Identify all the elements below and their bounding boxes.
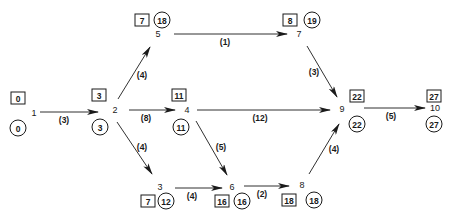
activity-duration-8-9: (4) <box>329 144 339 154</box>
activity-duration-5-7: (1) <box>220 37 230 47</box>
earliest-time-box-node-10: 27 <box>427 90 442 103</box>
activity-duration-2-4: (8) <box>141 113 151 123</box>
event-node-9-label: 9 <box>339 104 344 114</box>
event-node-3-label: 3 <box>157 182 162 192</box>
earliest-time-box-node-8: 18 <box>282 194 297 207</box>
latest-time-circle-node-1: 0 <box>10 120 27 137</box>
activity-duration-9-10: (5) <box>386 111 396 121</box>
latest-time-circle-node-10: 27 <box>426 116 443 133</box>
latest-time-circle-node-6: 16 <box>234 193 251 210</box>
event-node-4-label: 4 <box>184 105 189 115</box>
latest-time-circle-node-4: 11 <box>173 119 190 136</box>
earliest-time-box-node-9: 22 <box>350 90 365 103</box>
activity-duration-7-9: (3) <box>309 67 319 77</box>
activity-duration-3-6: (4) <box>187 191 197 201</box>
activity-duration-6-8: (2) <box>257 189 267 199</box>
earliest-time-box-node-1: 0 <box>11 92 26 105</box>
earliest-time-box-node-7: 8 <box>283 14 298 27</box>
activity-duration-2-5: (4) <box>137 70 147 80</box>
latest-time-circle-node-3: 12 <box>158 193 175 210</box>
earliest-time-box-node-2: 3 <box>92 89 107 102</box>
event-node-10-label: 10 <box>430 103 440 113</box>
earliest-time-box-node-5: 7 <box>135 14 150 27</box>
latest-time-circle-node-7: 19 <box>304 12 321 29</box>
event-node-6-label: 6 <box>229 182 234 192</box>
event-node-7-label: 7 <box>296 29 301 39</box>
event-node-2-label: 2 <box>112 105 117 115</box>
earliest-time-box-node-3: 7 <box>141 195 156 208</box>
event-node-1-label: 1 <box>31 108 36 118</box>
network-diagram: 1002333712411115718616167819818189222210… <box>0 0 454 223</box>
activity-duration-4-9: (12) <box>252 113 267 123</box>
activity-duration-4-6: (5) <box>216 142 226 152</box>
event-node-8-label: 8 <box>299 180 304 190</box>
latest-time-circle-node-2: 3 <box>92 119 109 136</box>
latest-time-circle-node-8: 18 <box>306 192 323 209</box>
event-node-5-label: 5 <box>155 29 160 39</box>
earliest-time-box-node-4: 11 <box>172 89 187 102</box>
activity-duration-2-3: (4) <box>137 142 147 152</box>
activity-duration-1-2: (3) <box>59 115 69 125</box>
latest-time-circle-node-9: 22 <box>349 116 366 133</box>
latest-time-circle-node-5: 18 <box>154 12 171 29</box>
earliest-time-box-node-6: 16 <box>215 195 230 208</box>
